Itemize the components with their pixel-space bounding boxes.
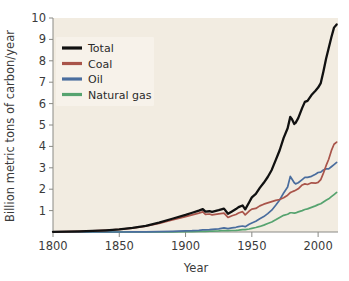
y-tick-label: 4 (39, 139, 46, 153)
legend-label-oil: Oil (88, 73, 103, 86)
y-tick-label: 5 (39, 118, 46, 132)
y-tick-label: 6 (39, 97, 46, 111)
y-tick-label: 2 (39, 182, 46, 196)
carbon-emissions-line-chart: 12345678910 18001850190019502000 TotalCo… (0, 0, 349, 281)
y-tick-label: 3 (39, 161, 46, 175)
y-tick-label: 1 (39, 204, 46, 218)
figure-container: 12345678910 18001850190019502000 TotalCo… (0, 0, 349, 281)
y-tick-label: 7 (39, 75, 46, 89)
x-axis-title: Year (183, 261, 209, 275)
y-axis-title: Billion metric tons of carbon/year (3, 30, 17, 222)
x-tick-label: 1850 (105, 239, 134, 253)
legend-label-natural-gas: Natural gas (88, 89, 152, 102)
x-tick-label: 2000 (303, 239, 332, 253)
x-tick-label: 1800 (38, 239, 67, 253)
chart-legend: TotalCoalOilNatural gas (56, 37, 154, 106)
y-tick-label: 10 (31, 11, 46, 25)
legend-label-coal: Coal (88, 58, 112, 71)
y-tick-label: 9 (39, 32, 46, 46)
x-tick-label: 1900 (171, 239, 200, 253)
legend-label-total: Total (87, 42, 114, 55)
y-tick-label: 8 (39, 54, 46, 68)
x-tick-label: 1950 (237, 239, 266, 253)
